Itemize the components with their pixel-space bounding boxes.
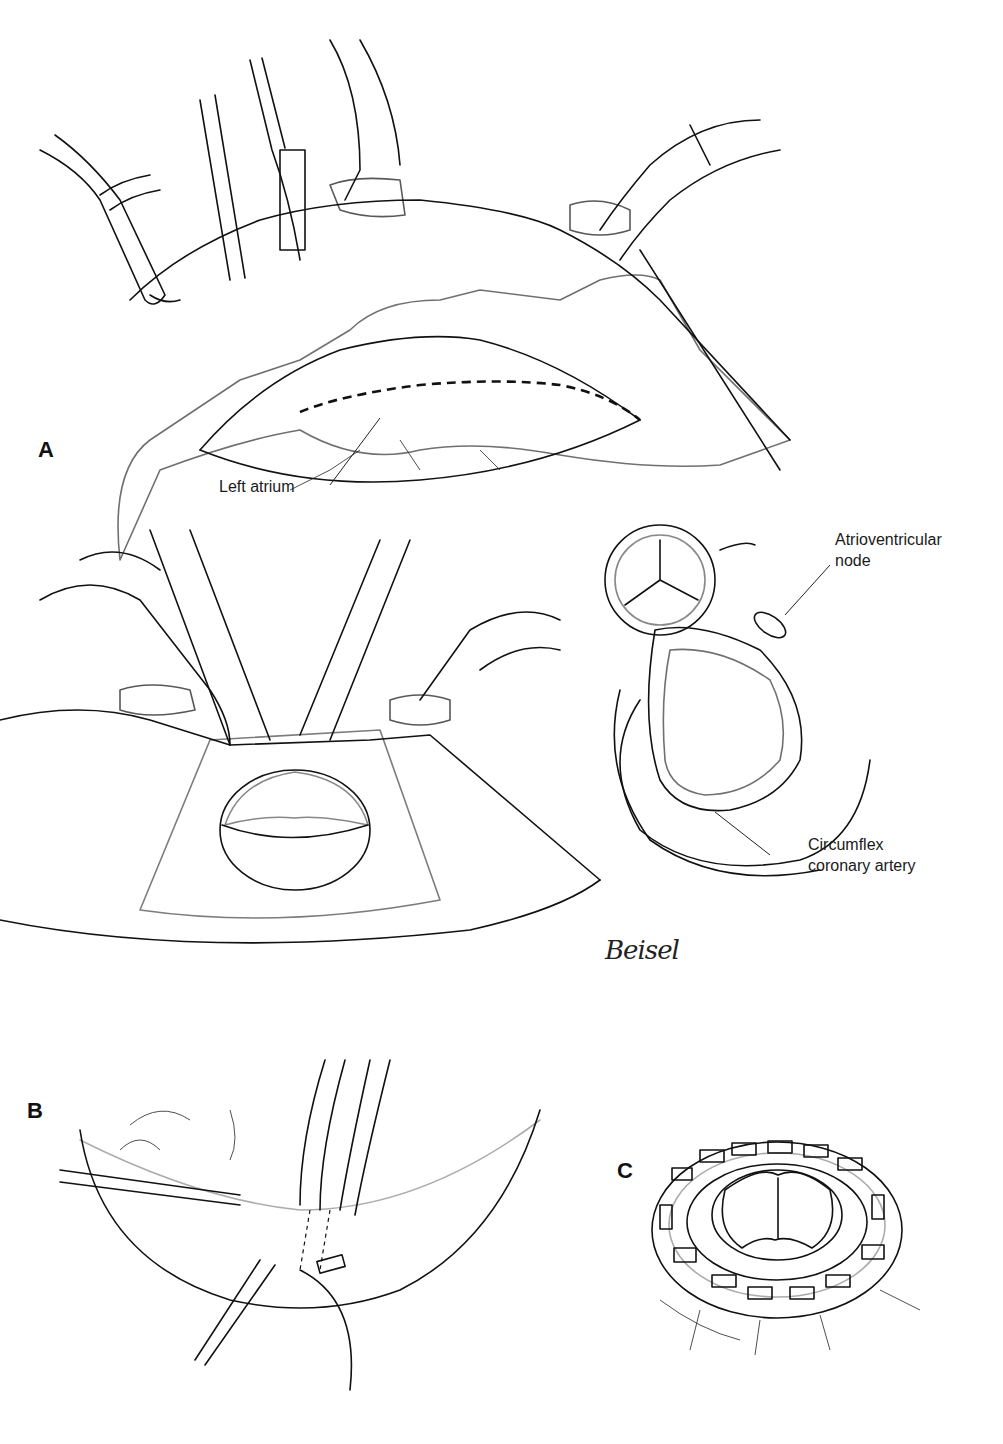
label-node: node (835, 551, 871, 571)
panel-letter-b: B (27, 1098, 43, 1124)
surgical-illustration (0, 0, 1003, 1444)
panel-a-drawing (40, 40, 790, 560)
panel-letter-a: A (38, 437, 54, 463)
valve-inset-drawing (605, 525, 870, 876)
label-coronary-artery: coronary artery (808, 856, 916, 876)
artist-signature: Beisel (605, 935, 679, 965)
panel-b-drawing (60, 1060, 540, 1390)
panel-c-drawing (652, 1141, 920, 1355)
label-circumflex: Circumflex (808, 835, 884, 855)
label-left-atrium: Left atrium (219, 477, 295, 497)
panel-letter-c: C (617, 1158, 633, 1184)
panel-a-atriotomy-drawing (0, 530, 600, 943)
label-atrioventricular: Atrioventricular (835, 530, 942, 550)
